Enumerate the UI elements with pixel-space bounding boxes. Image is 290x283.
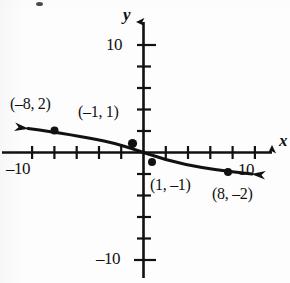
point-label-1-neg1: (1, –1) xyxy=(150,177,191,193)
y-tick-label-10: 10 xyxy=(106,36,122,53)
y-axis-label: y xyxy=(123,6,131,23)
point-label-8-neg2: (8, –2) xyxy=(212,186,253,202)
x-tick-label-10: 10 xyxy=(238,161,254,178)
graph-figure: y x 10 –10 –10 10 (–8, 2) (–1, 1) (1, –1… xyxy=(0,0,290,283)
y-tick-label-neg10: –10 xyxy=(96,250,120,267)
x-axis-label: x xyxy=(279,132,288,149)
data-point-neg1-1 xyxy=(128,139,137,148)
data-point-1-neg1 xyxy=(148,158,156,166)
data-point-8-neg2 xyxy=(224,168,232,176)
x-tick-label-neg10: –10 xyxy=(6,160,30,177)
data-point-neg8-2 xyxy=(51,127,59,135)
coordinate-plane xyxy=(0,0,290,283)
point-label-neg1-1: (–1, 1) xyxy=(78,104,119,120)
point-label-neg8-2: (–8, 2) xyxy=(10,96,51,112)
